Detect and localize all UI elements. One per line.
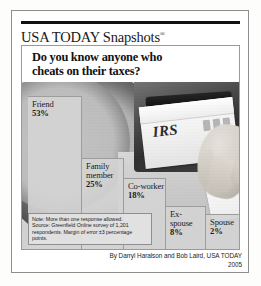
- bar-label-family-member: Family member25%: [86, 162, 122, 190]
- byline-credit: By Darryl Haralson and Bob Laird, USA TO…: [42, 252, 242, 261]
- bar-value-label: 25%: [86, 180, 122, 189]
- bar-category-name: Family member: [86, 161, 113, 180]
- registered-trademark-icon: ®: [160, 30, 165, 38]
- bar-label-spouse: Spouse2%: [210, 218, 238, 236]
- bar-value-label: 2%: [210, 227, 238, 236]
- masthead-title: USA TODAY Snapshots®: [21, 25, 243, 43]
- question-area: Do you know anyone who cheats on their t…: [22, 46, 239, 82]
- question-line-1: Do you know anyone who: [32, 50, 162, 64]
- masthead-rule: [21, 21, 240, 24]
- bar-label-ex-spouse: Ex-spouse8%: [170, 210, 204, 238]
- page-title: Do you know anyone who cheats on their t…: [32, 51, 222, 78]
- content-box: Do you know anyone who cheats on their t…: [21, 45, 240, 250]
- bar-category-name: Ex-spouse: [170, 209, 193, 228]
- bar-label-co-worker: Co-worker18%: [128, 182, 164, 200]
- envelope-irs-label: IRS: [152, 121, 179, 141]
- byline-year: 2005: [42, 261, 242, 270]
- bar-label-friend: Friend53%: [32, 100, 80, 118]
- bar-value-label: 18%: [128, 191, 164, 200]
- question-line-2: cheats on their taxes?: [32, 64, 140, 78]
- source-line-2: respondents. Margin of error ±3 percenta…: [32, 229, 148, 241]
- bar-value-label: 53%: [32, 109, 80, 118]
- bar-ex-spouse: Ex-spouse8%: [166, 206, 206, 250]
- byline: By Darryl Haralson and Bob Laird, USA TO…: [42, 252, 242, 269]
- note-source-box: Note: More than one response allowed. So…: [28, 213, 152, 245]
- usa-today-snapshot: USA TODAY Snapshots® Do you know anyone …: [0, 0, 261, 286]
- envelope-stamp-bar: [203, 120, 211, 132]
- photo-stage: IRS Friend53%Family member25%Co-worker18…: [22, 82, 239, 250]
- bar-value-label: 8%: [170, 228, 204, 237]
- bar-spouse: Spouse2%: [206, 214, 239, 250]
- masthead-title-text: USA TODAY Snapshots: [21, 29, 160, 45]
